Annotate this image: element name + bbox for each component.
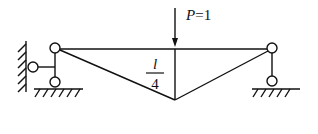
left-bottom-node (50, 77, 60, 87)
load-arrow-icon (172, 8, 178, 47)
right-ground (252, 89, 300, 97)
left-wall (18, 41, 26, 92)
right-top-node (267, 43, 277, 53)
load-label: P=1 (185, 7, 211, 23)
influence-triangle (60, 49, 268, 100)
right-bottom-node (267, 76, 277, 86)
left-horizontal-link (28, 62, 55, 72)
left-ground (34, 89, 83, 97)
left-top-node (50, 43, 60, 53)
ordinate-denominator: 4 (151, 76, 159, 92)
truss-diagram: P=1 l 4 (0, 0, 318, 134)
ordinate-numerator: l (153, 56, 157, 72)
